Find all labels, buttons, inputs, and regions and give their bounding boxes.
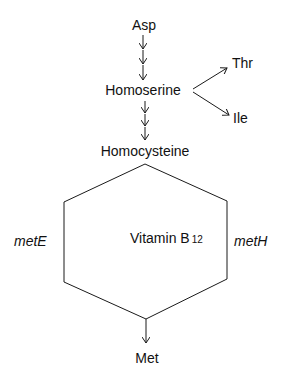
cofactor-label: Vitamin B [130, 230, 190, 246]
node-thr: Thr [232, 55, 253, 71]
enzyme-meth: metH [234, 233, 267, 249]
arrow-homoserine-to-thr [193, 68, 227, 89]
cofactor-vitamin-b12: Vitamin B12 [130, 230, 203, 248]
node-asp: Asp [132, 17, 156, 33]
node-homoserine: Homoserine [105, 82, 180, 98]
node-ile: Ile [233, 110, 248, 126]
node-homocysteine: Homocysteine [101, 143, 190, 159]
enzyme-mete: metE [14, 233, 47, 249]
pathway-diagram: Asp Homoserine Thr Ile Homocysteine Vita… [0, 0, 287, 384]
arrow-homoserine-to-ile [193, 92, 229, 115]
cofactor-subscript: 12 [192, 234, 203, 245]
node-met: Met [135, 350, 158, 366]
